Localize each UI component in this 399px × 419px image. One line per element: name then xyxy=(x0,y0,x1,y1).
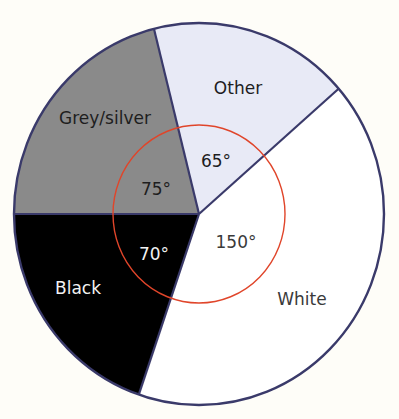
angle-label-other: 65° xyxy=(201,151,231,171)
label-white: White xyxy=(277,289,326,309)
label-black: Black xyxy=(55,278,101,298)
angle-label-grey-silver: 75° xyxy=(141,179,171,199)
label-grey-silver: Grey/silver xyxy=(59,108,151,128)
pie-chart: Grey/silver Other White Black 75° 65° 15… xyxy=(0,0,399,419)
angle-label-white: 150° xyxy=(216,232,257,252)
angle-label-black: 70° xyxy=(139,244,169,264)
label-other: Other xyxy=(214,78,262,98)
